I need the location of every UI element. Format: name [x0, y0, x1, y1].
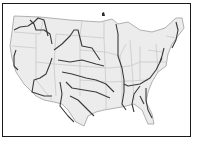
us-rivers-map	[0, 0, 199, 142]
lake-marker	[102, 12, 105, 16]
